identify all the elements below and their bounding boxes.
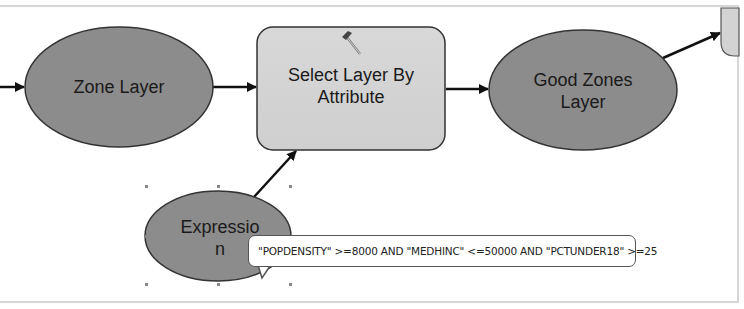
- connector-expression-to-select[interactable]: [254, 151, 296, 197]
- next-tool-node-partial[interactable]: [721, 8, 739, 56]
- tooltip-text: "POPDENSITY" >=8000 AND "MEDHINC" <=5000…: [258, 245, 657, 257]
- selection-handle[interactable]: [217, 283, 220, 286]
- selection-handle[interactable]: [145, 283, 148, 286]
- selection-handle[interactable]: [145, 235, 148, 238]
- connector-goodzones-to-next[interactable]: [663, 33, 720, 58]
- expression-tooltip: "POPDENSITY" >=8000 AND "MEDHINC" <=5000…: [248, 235, 636, 267]
- selection-handle[interactable]: [289, 185, 292, 188]
- selection-handle[interactable]: [145, 185, 148, 188]
- zone-layer-node[interactable]: [25, 27, 213, 147]
- selection-handle[interactable]: [289, 283, 292, 286]
- good-zones-layer-node[interactable]: [489, 30, 677, 150]
- select-layer-by-attribute-node[interactable]: [257, 27, 445, 150]
- selection-handle[interactable]: [217, 185, 220, 188]
